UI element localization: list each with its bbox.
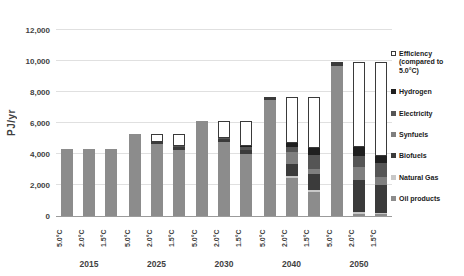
legend-item-synfuels: Synfuels <box>391 131 463 139</box>
scenario-label: 2.0°C <box>213 220 235 256</box>
legend-label: Natural Gas <box>399 174 438 182</box>
scenario-label: 1.5°C <box>168 220 190 256</box>
segment-oil-products <box>83 149 95 216</box>
segment-oil-products <box>151 144 163 216</box>
stacked-bar-2050-2.0°C <box>353 62 365 216</box>
segment-oil-products <box>196 121 208 216</box>
bar-column <box>56 30 78 216</box>
segment-synfuels <box>353 167 365 180</box>
segment-efficiency <box>218 121 230 138</box>
segment-biofuels <box>353 180 365 212</box>
bar-column <box>370 30 392 216</box>
y-tick-label: 6,000 <box>0 119 50 128</box>
scenario-label: 5.0°C <box>56 220 78 256</box>
stacked-bar-2040-5.0°C <box>264 97 276 216</box>
segment-hydrogen <box>308 148 320 155</box>
scenario-label: 1.5°C <box>100 220 122 256</box>
stacked-bar-2040-2.0°C <box>286 97 298 216</box>
legend-swatch-biofuels <box>391 153 396 158</box>
segment-oil-products <box>286 178 298 216</box>
x-label-group: 5.0°C2.0°C1.5°C2025 <box>124 220 190 269</box>
bar-column <box>168 30 190 216</box>
legend-item-electricity: Electricity <box>391 110 463 118</box>
legend-label: Oil products <box>399 195 440 203</box>
legend-swatch-efficiency <box>391 51 396 56</box>
legend-label: Efficiency (compared to 5.0°C) <box>399 50 443 75</box>
segment-hydrogen <box>353 147 365 156</box>
bar-column <box>78 30 100 216</box>
segment-electricity <box>308 155 320 169</box>
bar-column <box>100 30 122 216</box>
stacked-bar-2030-5.0°C <box>196 121 208 216</box>
stacked-bar-2025-1.5°C <box>173 134 185 216</box>
legend-label: Hydrogen <box>399 88 432 96</box>
scenario-label: 2.0°C <box>146 220 168 256</box>
scenario-label: 1.5°C <box>235 220 257 256</box>
stacked-bar-2030-2.0°C <box>218 121 230 216</box>
x-label-group: 5.0°C2.0°C1.5°C2030 <box>191 220 257 269</box>
scenario-label: 5.0°C <box>259 220 281 256</box>
segment-oil-products <box>240 154 252 216</box>
stacked-bar-2050-1.5°C <box>375 62 387 216</box>
y-tick-label: 0 <box>0 212 50 221</box>
bar-column <box>124 30 146 216</box>
scenario-label: 5.0°C <box>326 220 348 256</box>
scenario-label: 1.5°C <box>303 220 325 256</box>
bar-groups <box>56 30 392 216</box>
segment-efficiency <box>353 62 365 147</box>
year-label: 2015 <box>56 259 122 269</box>
y-tick-label: 10,000 <box>0 57 50 66</box>
legend-swatch-natural-gas <box>391 175 396 180</box>
segment-oil-products <box>331 66 343 216</box>
segment-synfuels <box>286 152 298 164</box>
segment-biofuels <box>286 164 298 176</box>
bar-column <box>348 30 370 216</box>
segment-efficiency <box>151 134 163 143</box>
bar-column <box>259 30 281 216</box>
segment-oil-products <box>105 149 117 216</box>
y-tick-label: 4,000 <box>0 150 50 159</box>
segment-oil-products <box>308 192 320 216</box>
legend-swatch-electricity <box>391 111 396 116</box>
stacked-bar-2030-1.5°C <box>240 121 252 216</box>
bar-column <box>191 30 213 216</box>
legend-item-oil-products: Oil products <box>391 195 463 203</box>
bar-group-2050 <box>326 30 392 216</box>
x-label-group: 5.0°C2.0°C1.5°C2015 <box>56 220 122 269</box>
stacked-bar-2015-2.0°C <box>83 149 95 216</box>
bar-column <box>146 30 168 216</box>
segment-efficiency <box>240 121 252 147</box>
y-tick-label: 12,000 <box>0 26 50 35</box>
y-axis-tick-labels: 02,0004,0006,0008,00010,00012,000 <box>0 0 50 276</box>
year-label: 2040 <box>259 259 325 269</box>
segment-oil-products <box>129 134 141 216</box>
legend-label: Electricity <box>399 110 432 118</box>
x-label-group: 5.0°C2.0°C1.5°C2040 <box>259 220 325 269</box>
legend-swatch-oil-products <box>391 196 396 201</box>
year-label: 2030 <box>191 259 257 269</box>
segment-hydrogen <box>375 156 387 163</box>
segment-efficiency <box>286 97 298 144</box>
segment-electricity <box>375 163 387 178</box>
bar-group-2030 <box>191 30 257 216</box>
bar-column <box>303 30 325 216</box>
legend-item-hydrogen: Hydrogen <box>391 88 463 96</box>
segment-oil-products <box>173 150 185 216</box>
stacked-bar-2050-5.0°C <box>331 62 343 216</box>
stacked-bar-chart: PJ/yr 02,0004,0006,0008,00010,00012,000 … <box>0 0 464 276</box>
stacked-bar-2025-5.0°C <box>129 134 141 216</box>
stacked-bar-2015-1.5°C <box>105 149 117 216</box>
bar-column <box>213 30 235 216</box>
legend-swatch-synfuels <box>391 132 396 137</box>
year-label: 2025 <box>124 259 190 269</box>
y-tick-label: 2,000 <box>0 181 50 190</box>
plot-area <box>56 30 392 216</box>
legend-item-biofuels: Biofuels <box>391 152 463 160</box>
legend-label: Biofuels <box>399 152 427 160</box>
scenario-label: 5.0°C <box>124 220 146 256</box>
bar-group-2025 <box>124 30 190 216</box>
segment-synfuels <box>375 177 387 185</box>
segment-oil-products <box>264 100 276 216</box>
bar-group-2040 <box>259 30 325 216</box>
y-tick-label: 8,000 <box>0 88 50 97</box>
